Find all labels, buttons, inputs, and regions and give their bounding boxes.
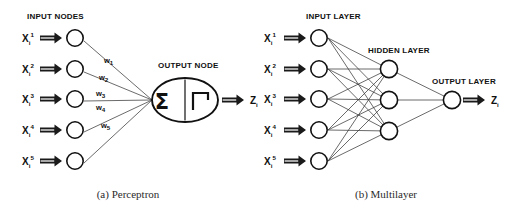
output-node-heading: OUTPUT NODE [158, 61, 219, 70]
input-label: Xi5 [264, 154, 276, 169]
perceptron-weight-labels: w1 w2 w3 w4 w5 [95, 56, 114, 131]
input-node [67, 30, 83, 46]
multilayer-input-nodes [311, 30, 327, 169]
input-node [311, 122, 327, 138]
input-label: Xi3 [22, 92, 34, 107]
output-node [443, 91, 460, 108]
input-layer-heading: INPUT LAYER [306, 12, 361, 21]
output-label: Zi [491, 95, 499, 108]
weight-label: w1 [103, 56, 114, 66]
panel-multilayer: INPUT LAYER HIDDEN LAYER OUTPUT LAYER [264, 12, 499, 201]
hidden-layer-heading: HIDDEN LAYER [368, 46, 430, 55]
output-arrow [222, 94, 244, 105]
input-label: Xi3 [264, 92, 276, 107]
input-node [67, 122, 83, 138]
output-label: Zi [250, 95, 258, 108]
input-label: Xi5 [22, 154, 34, 169]
perceptron-input-labels: Xi1 Xi2 Xi3 Xi4 Xi5 [22, 31, 34, 169]
multilayer-input-arrows [284, 32, 306, 166]
input-node [311, 91, 327, 107]
multilayer-input-labels: Xi1 Xi2 Xi3 Xi4 Xi5 [264, 31, 276, 169]
panel-b-caption: (b) Multilayer [355, 188, 417, 201]
input-node [67, 91, 83, 107]
input-node [67, 61, 83, 77]
input-node [311, 61, 327, 77]
summation-icon: Σ [155, 90, 169, 114]
hidden-nodes [380, 60, 397, 139]
weight-label: w3 [95, 89, 106, 99]
input-nodes-heading: INPUT NODES [27, 12, 84, 21]
perceptron-input-nodes [67, 30, 83, 169]
input-node [311, 153, 327, 169]
input-label: Xi4 [22, 123, 34, 138]
output-arrow [463, 94, 485, 105]
input-label: Xi4 [264, 123, 276, 138]
output-node: Σ [152, 78, 218, 122]
input-node [67, 153, 83, 169]
neural-network-figure: INPUT NODES OUTPUT NODE [0, 0, 514, 215]
input-label: Xi1 [264, 31, 276, 46]
input-label: Xi2 [264, 62, 276, 77]
weight-label: w4 [95, 103, 106, 113]
panel-a-caption: (a) Perceptron [97, 188, 160, 201]
panel-perceptron: INPUT NODES OUTPUT NODE [22, 12, 258, 201]
input-label: Xi2 [22, 62, 34, 77]
input-label: Xi1 [22, 31, 34, 46]
hidden-node [380, 91, 397, 108]
weight-label: w2 [98, 73, 109, 83]
hidden-node [380, 122, 397, 139]
output-layer-heading: OUTPUT LAYER [432, 77, 496, 86]
weight-label: w5 [100, 121, 111, 131]
hidden-node [380, 60, 397, 77]
perceptron-connections [84, 41, 152, 163]
perceptron-input-arrows [40, 32, 62, 166]
input-node [311, 30, 327, 46]
